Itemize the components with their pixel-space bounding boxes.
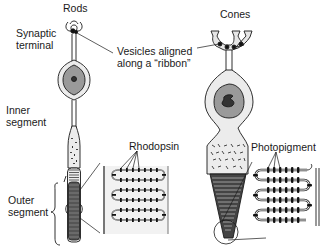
rhodopsin-inset [104,151,168,234]
photopigment-inset [253,152,319,226]
outer-segment-label-1: Outer [8,194,34,206]
rod-nucleus [72,77,77,82]
cones-heading: Cones [220,8,250,20]
rod-inner-segment [68,126,80,168]
rhodopsin-label: Rhodopsin [129,140,179,152]
synaptic-terminal-label-2: terminal [16,39,53,51]
photoreceptor-diagram: Rods Cones Synaptic terminal Vesicles al… [0,0,324,246]
rod-cell [58,21,90,242]
rod-synaptic-terminal [66,21,82,34]
vesicles-label-2: along a “ribbon” [117,57,191,69]
vesicles-label-1: Vesicles aligned [117,45,192,57]
synaptic-terminal-label-1: Synaptic [16,27,56,39]
inner-segment-label-2: segment [6,116,46,128]
inner-segment-label-1: Inner [6,104,30,116]
photopigment-label: Photopigment [251,141,316,153]
cone-nucleus [222,95,234,107]
outer-segment-brace [51,183,60,245]
rods-heading: Rods [63,2,88,14]
cone-synaptic-terminal [211,31,252,50]
outer-segment-label-2: segment [8,206,48,218]
cone-cell [205,31,253,244]
